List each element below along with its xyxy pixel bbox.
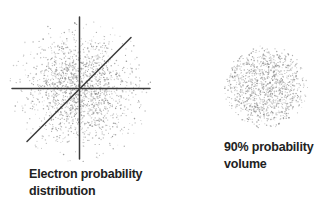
orbital-probability-figure: Electron probability distribution 90% pr… (0, 0, 335, 206)
electron-distribution-caption: Electron probability distribution (29, 166, 142, 200)
caption-line-2: distribution (29, 183, 142, 200)
caption-line-1: Electron probability (29, 166, 142, 183)
probability-volume-caption: 90% probability volume (224, 139, 313, 173)
probability-volume-scatter (224, 45, 308, 128)
caption-line-2: volume (224, 156, 313, 173)
electron-distribution-scatter (10, 21, 152, 162)
caption-line-1: 90% probability (224, 139, 313, 156)
